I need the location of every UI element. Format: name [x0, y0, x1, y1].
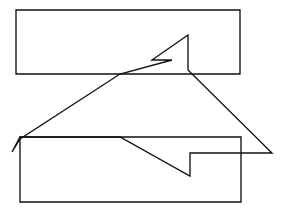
figure-canvas: Overlapping rectangles and notched arrow… [0, 0, 285, 213]
canvas-background [0, 0, 285, 213]
line-drawing-svg [0, 0, 285, 213]
